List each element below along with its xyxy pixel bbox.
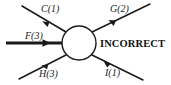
arrow-label-f: F(3) xyxy=(25,31,43,41)
central-node-circle xyxy=(62,26,96,60)
arrow-label-g: G(2) xyxy=(110,4,129,14)
arrow-f-head xyxy=(43,39,51,46)
arrow-label-c: C(1) xyxy=(41,4,59,14)
arrow-label-i: I(1) xyxy=(105,68,120,78)
arrow-c-head xyxy=(42,21,49,27)
force-diagram-figure: C(1) F(3) H(3) G(2) I(1) INCORRECT xyxy=(0,0,171,85)
verdict-label: INCORRECT xyxy=(100,39,165,50)
arrow-label-h: H(3) xyxy=(39,69,58,79)
